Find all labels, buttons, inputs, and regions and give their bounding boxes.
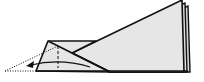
origami-diagram xyxy=(0,0,204,82)
diagram-canvas xyxy=(0,0,204,82)
